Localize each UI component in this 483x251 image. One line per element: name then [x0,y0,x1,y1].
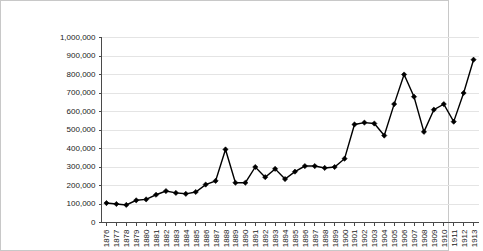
x-axis-tick-label: 1896 [301,229,310,247]
x-axis-tick-label: 1899 [331,229,340,247]
data-point-marker [233,180,238,185]
data-point-marker [302,163,307,168]
data-point-marker [114,201,119,206]
x-axis-tick-label: 1898 [321,229,330,247]
y-axis-tick-label: 300,000 [67,162,96,171]
y-axis-tick-label: 100,000 [67,199,96,208]
data-point-marker [312,163,317,168]
x-axis-tick-label: 1887 [212,229,221,247]
data-point-marker [153,192,158,197]
y-axis-tick-label: 1,000,000 [60,33,96,42]
x-axis-tick-label: 1886 [202,229,211,247]
x-axis-tick-label: 1885 [192,229,201,247]
x-axis-tick-label: 1900 [341,229,350,247]
y-axis-tick-label: 900,000 [67,51,96,60]
y-axis-tick-label: 500,000 [67,125,96,134]
x-axis-tick-label: 1882 [162,229,171,247]
data-point-marker [223,147,228,152]
series-line [106,60,473,205]
x-axis-tick-labels: 1876187718781879188018811882188318841885… [102,229,478,247]
data-point-marker [352,122,357,127]
y-axis-tick-label: 200,000 [67,181,96,190]
data-point-marker [163,188,168,193]
x-axis-tick-label: 1884 [182,229,191,247]
x-axis-tick-label: 1893 [271,229,280,247]
x-axis-tick-label: 1908 [420,229,429,247]
x-axis-tick-label: 1892 [261,229,270,247]
x-axis-tick-label: 1877 [112,229,121,247]
x-axis-tick-label: 1904 [380,229,389,247]
x-axis-tick-label: 1881 [152,229,161,247]
x-axis-tick-label: 1911 [450,229,459,247]
data-point-marker [104,200,109,205]
data-point-marker [401,72,406,77]
series-markers [104,57,476,207]
y-axis-tick-labels: 0100,000200,000300,000400,000500,000600,… [60,33,96,227]
x-axis-tick-label: 1905 [390,229,399,247]
x-axis-tick-label: 1890 [241,229,250,247]
data-point-marker [461,90,466,95]
x-axis-tick-label: 1891 [251,229,260,247]
line-chart: 0100,000200,000300,000400,000500,000600,… [41,17,483,251]
data-point-marker [124,202,129,207]
x-axis-tick-label: 1883 [172,229,181,247]
x-axis-tick-label: 1889 [231,229,240,247]
x-axis-tick-label: 1895 [291,229,300,247]
data-point-marker [411,94,416,99]
data-point-marker [213,178,218,183]
x-axis-tick-label: 1913 [470,229,479,247]
x-axis-tick-label: 1912 [460,229,469,247]
data-point-marker [322,165,327,170]
x-axis-tick-label: 1897 [311,229,320,247]
y-axis-tick-label: 700,000 [67,88,96,97]
data-point-marker [362,120,367,125]
x-axis-tick-label: 1907 [410,229,419,247]
data-point-marker [392,102,397,107]
x-axis-tick-label: 1902 [360,229,369,247]
data-point-marker [134,198,139,203]
data-point-marker [471,57,476,62]
x-axis-tick-label: 1910 [440,229,449,247]
x-axis-tick-label: 1888 [222,229,231,247]
x-axis-tick-label: 1909 [430,229,439,247]
x-axis-tick-label: 1906 [400,229,409,247]
y-axis-tick-label: 600,000 [67,107,96,116]
y-axis-tick-label: 0 [91,218,96,227]
x-axis-tick-label: 1878 [122,229,131,247]
x-axis-tick-label: 1903 [370,229,379,247]
x-axis-tick-label: 1876 [102,229,111,247]
x-axis-tick-label: 1879 [132,229,141,247]
x-axis-tick-label: 1880 [142,229,151,247]
data-point-marker [183,191,188,196]
chart-canvas: 0100,000200,000300,000400,000500,000600,… [41,17,483,251]
x-axis-tick-label: 1901 [350,229,359,247]
y-axis-tick-label: 800,000 [67,70,96,79]
gridlines [102,38,479,205]
data-point-marker [173,190,178,195]
y-axis-tick-label: 400,000 [67,144,96,153]
x-axis-tick-label: 1894 [281,229,290,247]
data-point-marker [144,197,149,202]
